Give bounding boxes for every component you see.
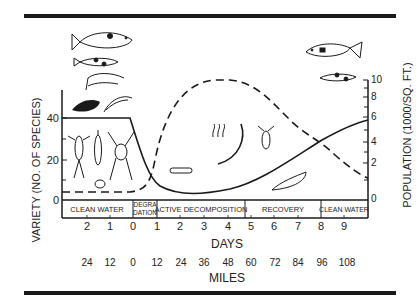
- svg-text:5: 5: [248, 220, 254, 232]
- svg-text:2: 2: [84, 220, 90, 232]
- svg-text:12: 12: [151, 257, 163, 268]
- zone-clean-water-upstream: CLEAN WATER: [70, 205, 124, 214]
- right-tick-2: 2: [371, 157, 377, 168]
- svg-text:8: 8: [318, 220, 324, 232]
- zone-active-decomposition: ACTIVE DECOMPOSITION: [155, 205, 248, 214]
- fish-large-downstream-icon: [306, 42, 362, 58]
- right-tick-0: 0: [371, 193, 377, 204]
- svg-text:24: 24: [175, 257, 187, 268]
- day-ticks: 2 1 0 1 2 3 4 5 6 7 8 9: [84, 220, 347, 232]
- svg-text:7: 7: [295, 220, 301, 232]
- svg-text:6: 6: [271, 220, 277, 232]
- right-tick-10: 10: [371, 74, 383, 85]
- mayfly-nymph-icon: [95, 130, 102, 165]
- svg-text:24: 24: [81, 257, 93, 268]
- population-curve: [62, 80, 368, 192]
- leech-icon: [272, 172, 306, 190]
- miles-axis-label: MILES: [209, 271, 245, 285]
- svg-text:2: 2: [177, 220, 183, 232]
- tubifex-worms-icon: [213, 124, 225, 137]
- left-tick-0: 0: [53, 194, 59, 206]
- svg-text:1: 1: [154, 220, 160, 232]
- crayfish-icon: [86, 74, 124, 91]
- svg-text:0: 0: [130, 220, 136, 232]
- right-axis-label: POPULATION (1000/SQ. FT.): [401, 62, 413, 207]
- svg-text:4: 4: [225, 220, 231, 232]
- caddisfly-larva-icon: [72, 100, 100, 112]
- right-tick-8: 8: [371, 91, 377, 102]
- svg-text:108: 108: [339, 257, 356, 268]
- snail-icon: [95, 180, 105, 188]
- right-tick-6: 6: [371, 111, 377, 122]
- water-penny-icon: [108, 132, 134, 180]
- fish-small-upstream-icon: [74, 58, 118, 66]
- svg-text:48: 48: [222, 257, 234, 268]
- scud-icon: [104, 97, 132, 112]
- svg-text:96: 96: [316, 257, 328, 268]
- days-axis-label: DAYS: [211, 237, 243, 251]
- svg-text:3: 3: [201, 220, 207, 232]
- svg-text:84: 84: [292, 257, 304, 268]
- midge-larva-icon: [218, 124, 243, 164]
- zone-recovery: RECOVERY: [262, 205, 304, 214]
- zone-clean-water-downstream: CLEAN WATER: [319, 206, 369, 213]
- fish-large-upstream-icon: [72, 33, 132, 50]
- bloodworm-larva-icon: [170, 168, 192, 173]
- pollution-zones-diagram: VARIETY (NO. OF SPECIES) POPULATION (100…: [0, 0, 420, 304]
- svg-text:36: 36: [198, 257, 210, 268]
- svg-text:0: 0: [130, 257, 136, 268]
- svg-text:60: 60: [245, 257, 257, 268]
- svg-text:1: 1: [107, 220, 113, 232]
- fish-small-downstream-icon: [320, 73, 356, 81]
- left-axis-label: VARIETY (NO. OF SPECIES): [30, 97, 42, 242]
- svg-text:12: 12: [104, 257, 116, 268]
- mile-ticks: 24 12 0 12 24 36 48 60 72 84 96 108: [81, 257, 355, 268]
- svg-text:72: 72: [269, 257, 281, 268]
- right-tick-4: 4: [371, 136, 377, 147]
- left-tick-20: 20: [47, 154, 59, 166]
- left-tick-40: 40: [47, 112, 59, 124]
- svg-text:9: 9: [341, 220, 347, 232]
- stonefly-nymph-icon: [68, 136, 90, 178]
- variety-curve: [62, 118, 368, 194]
- sowbug-icon: [258, 126, 274, 149]
